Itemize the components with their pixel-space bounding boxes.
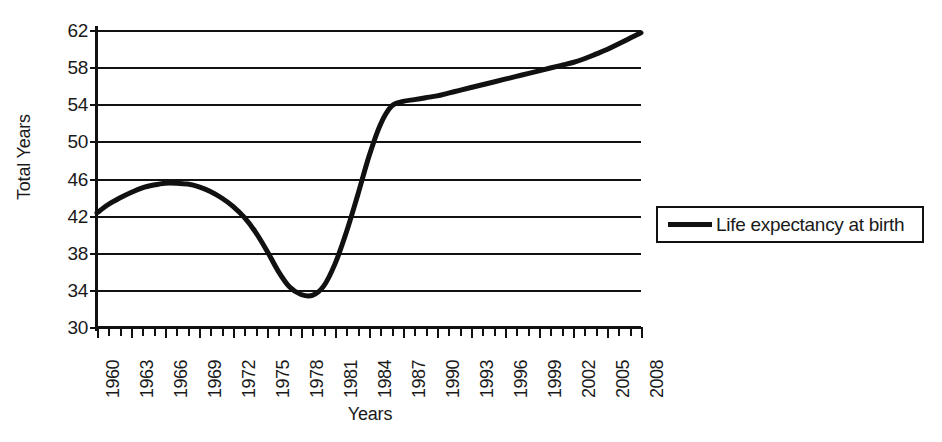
x-axis-tick-label: 1969 bbox=[206, 360, 224, 398]
x-axis-tick bbox=[380, 327, 382, 336]
x-axis-tick bbox=[414, 327, 416, 336]
x-axis-tick-label: 1978 bbox=[308, 360, 326, 398]
x-axis-tick-label: 1993 bbox=[478, 360, 496, 398]
x-axis-tick bbox=[403, 327, 405, 338]
x-axis-tick bbox=[584, 327, 586, 336]
legend-line-swatch-icon bbox=[668, 222, 712, 227]
x-axis-tick bbox=[278, 327, 280, 336]
gridline bbox=[97, 141, 641, 143]
y-axis-tick-label: 46 bbox=[67, 169, 88, 188]
x-axis-tick bbox=[426, 327, 428, 336]
chart-figure: Total Years 303438424650545862 196019631… bbox=[0, 0, 942, 442]
y-axis-tick bbox=[90, 141, 99, 143]
x-axis-tick bbox=[618, 327, 620, 336]
x-axis-title: Years bbox=[0, 404, 740, 425]
y-axis-tick-label: 30 bbox=[67, 318, 88, 337]
x-axis-tick bbox=[607, 327, 609, 338]
x-axis-tick-label: 1966 bbox=[172, 360, 190, 398]
x-axis-tick bbox=[267, 327, 269, 338]
x-axis-tick bbox=[176, 327, 178, 336]
y-axis-tick bbox=[90, 67, 99, 69]
x-axis-tick-label: 2008 bbox=[648, 360, 666, 398]
y-axis-tick bbox=[90, 104, 99, 106]
gridline bbox=[97, 104, 641, 106]
x-axis-tick bbox=[573, 327, 575, 338]
x-axis-tick bbox=[97, 327, 99, 338]
gridline bbox=[97, 216, 641, 218]
x-axis-tick bbox=[482, 327, 484, 336]
gridline bbox=[97, 253, 641, 255]
chart-legend: Life expectancy at birth bbox=[656, 206, 924, 243]
x-axis-tick-label: 1999 bbox=[546, 360, 564, 398]
x-axis-tick-label: 1984 bbox=[376, 360, 394, 398]
x-axis-tick bbox=[369, 327, 371, 338]
x-axis-tick bbox=[165, 327, 167, 338]
x-axis-tick bbox=[256, 327, 258, 336]
x-axis-tick bbox=[528, 327, 530, 336]
y-axis-tick bbox=[90, 290, 99, 292]
y-axis-tick-label: 62 bbox=[67, 21, 88, 40]
x-axis-tick bbox=[222, 327, 224, 336]
x-axis-tick bbox=[335, 327, 337, 338]
x-axis-tick bbox=[596, 327, 598, 336]
x-axis-tick bbox=[199, 327, 201, 338]
x-axis-tick-label: 1987 bbox=[410, 360, 428, 398]
gridline bbox=[97, 67, 641, 69]
plot-area: 303438424650545862 bbox=[97, 30, 641, 327]
gridline bbox=[97, 30, 641, 32]
x-axis-tick-label: 1960 bbox=[104, 360, 122, 398]
x-axis-tick bbox=[550, 327, 552, 336]
y-axis-tick-label: 50 bbox=[67, 132, 88, 151]
x-axis-tick bbox=[437, 327, 439, 338]
y-axis-tick-label: 34 bbox=[67, 280, 88, 299]
x-axis-tick bbox=[142, 327, 144, 336]
x-axis-ticks bbox=[97, 327, 641, 339]
x-axis-tick bbox=[448, 327, 450, 336]
x-axis-tick bbox=[630, 327, 632, 336]
x-axis-tick-label: 1996 bbox=[512, 360, 530, 398]
x-axis-tick bbox=[641, 327, 643, 338]
x-axis-tick-label: 1972 bbox=[240, 360, 258, 398]
x-axis-tick bbox=[210, 327, 212, 336]
y-axis-tick-label: 42 bbox=[67, 206, 88, 225]
x-axis-tick bbox=[233, 327, 235, 338]
x-axis-tick bbox=[131, 327, 133, 338]
x-axis-tick-label: 1981 bbox=[342, 360, 360, 398]
x-axis-tick bbox=[516, 327, 518, 336]
legend-label: Life expectancy at birth bbox=[716, 214, 904, 236]
x-axis-tick bbox=[188, 327, 190, 336]
x-axis-tick bbox=[290, 327, 292, 336]
y-axis-tick bbox=[90, 253, 99, 255]
x-axis-tick bbox=[494, 327, 496, 336]
y-axis-tick bbox=[90, 179, 99, 181]
y-axis-title: Total Years bbox=[14, 114, 35, 200]
x-axis-tick-label: 2002 bbox=[580, 360, 598, 398]
gridline bbox=[97, 179, 641, 181]
y-axis-tick bbox=[90, 30, 99, 32]
x-axis-tick bbox=[539, 327, 541, 338]
y-axis-tick-label: 38 bbox=[67, 243, 88, 262]
y-axis-tick-label: 54 bbox=[67, 95, 88, 114]
x-axis-tick bbox=[301, 327, 303, 338]
x-axis-tick bbox=[108, 327, 110, 336]
y-axis-tick bbox=[90, 216, 99, 218]
x-axis-tick-label: 1963 bbox=[138, 360, 156, 398]
x-axis-tick bbox=[346, 327, 348, 336]
x-axis-tick bbox=[505, 327, 507, 338]
gridline bbox=[97, 290, 641, 292]
x-axis-tick bbox=[562, 327, 564, 336]
x-axis-tick bbox=[460, 327, 462, 336]
series-line bbox=[97, 33, 641, 296]
y-axis-tick-label: 58 bbox=[67, 58, 88, 77]
x-axis-tick bbox=[358, 327, 360, 336]
x-axis-tick bbox=[244, 327, 246, 336]
x-axis-tick bbox=[120, 327, 122, 336]
x-axis-tick bbox=[392, 327, 394, 336]
x-axis-tick bbox=[154, 327, 156, 336]
x-axis-tick-labels: 1960196319661969197219751978198119841987… bbox=[97, 340, 641, 400]
x-axis-tick bbox=[324, 327, 326, 336]
x-axis-tick bbox=[471, 327, 473, 338]
x-axis-tick-label: 1975 bbox=[274, 360, 292, 398]
x-axis-tick-label: 2005 bbox=[614, 360, 632, 398]
x-axis-tick bbox=[312, 327, 314, 336]
